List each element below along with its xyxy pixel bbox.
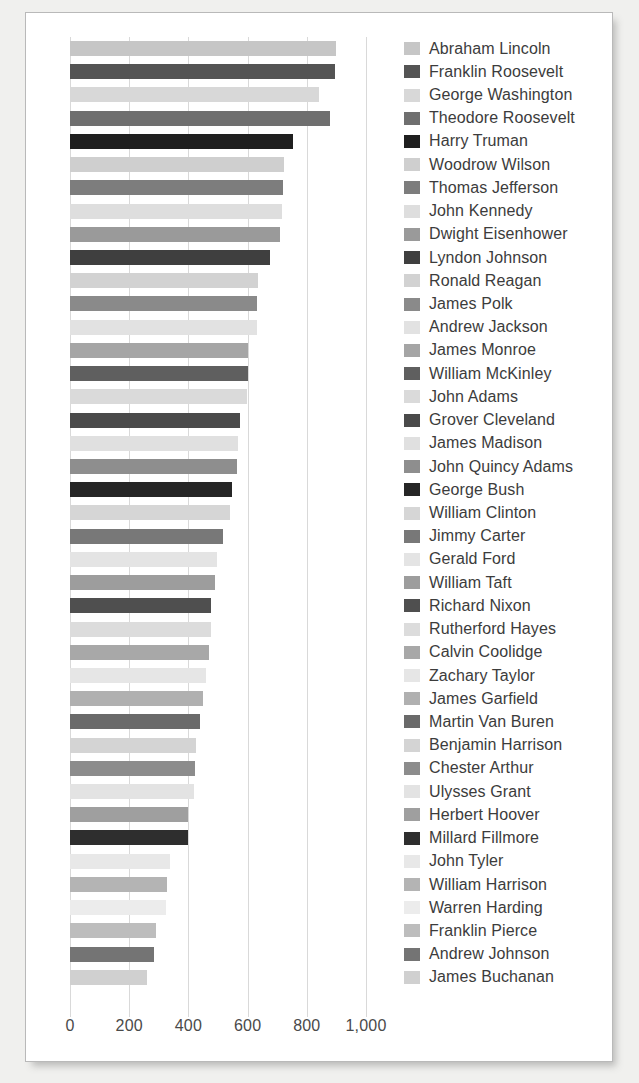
bar[interactable] — [70, 273, 258, 288]
legend-item[interactable]: George Bush — [404, 478, 524, 501]
bar-row[interactable] — [70, 757, 366, 780]
bar-row[interactable] — [70, 107, 366, 130]
legend-item[interactable]: George Washington — [404, 83, 572, 106]
legend-item[interactable]: Harry Truman — [404, 130, 528, 153]
bar[interactable] — [70, 877, 167, 892]
bar[interactable] — [70, 738, 196, 753]
bar[interactable] — [70, 87, 319, 102]
legend-item[interactable]: James Polk — [404, 292, 513, 315]
bar-row[interactable] — [70, 130, 366, 153]
legend-item[interactable]: Theodore Roosevelt — [404, 107, 575, 130]
bar-row[interactable] — [70, 385, 366, 408]
bar[interactable] — [70, 436, 238, 451]
legend-item[interactable]: Ulysses Grant — [404, 780, 531, 803]
legend-item[interactable]: James Madison — [404, 432, 542, 455]
legend-item[interactable]: Lyndon Johnson — [404, 246, 547, 269]
bar-row[interactable] — [70, 734, 366, 757]
bar[interactable] — [70, 389, 247, 404]
bar[interactable] — [70, 900, 166, 915]
bar-row[interactable] — [70, 687, 366, 710]
bar[interactable] — [70, 134, 293, 149]
bar[interactable] — [70, 64, 335, 79]
bar[interactable] — [70, 505, 230, 520]
legend-item[interactable]: John Kennedy — [404, 200, 533, 223]
legend-item[interactable]: Dwight Eisenhower — [404, 223, 568, 246]
legend-item[interactable]: William Taft — [404, 571, 512, 594]
bar[interactable] — [70, 761, 195, 776]
bar[interactable] — [70, 691, 203, 706]
bar-row[interactable] — [70, 966, 366, 989]
bar-row[interactable] — [70, 37, 366, 60]
bar-row[interactable] — [70, 896, 366, 919]
bar-row[interactable] — [70, 919, 366, 942]
legend-item[interactable]: Franklin Pierce — [404, 919, 537, 942]
bar-row[interactable] — [70, 618, 366, 641]
legend-item[interactable]: Grover Cleveland — [404, 409, 555, 432]
bar[interactable] — [70, 552, 217, 567]
legend-item[interactable]: Thomas Jefferson — [404, 176, 558, 199]
legend-item[interactable]: Andrew Johnson — [404, 943, 550, 966]
bar-row[interactable] — [70, 850, 366, 873]
bar[interactable] — [70, 111, 330, 126]
legend-item[interactable]: William Harrison — [404, 873, 547, 896]
legend-item[interactable]: James Garfield — [404, 687, 538, 710]
bar-row[interactable] — [70, 641, 366, 664]
bar-row[interactable] — [70, 153, 366, 176]
bar[interactable] — [70, 575, 215, 590]
bar-row[interactable] — [70, 664, 366, 687]
bar-row[interactable] — [70, 409, 366, 432]
legend-item[interactable]: Andrew Jackson — [404, 316, 548, 339]
legend-item[interactable]: William Clinton — [404, 501, 536, 524]
legend-item[interactable]: Zachary Taylor — [404, 664, 535, 687]
bar[interactable] — [70, 413, 240, 428]
legend-item[interactable]: Warren Harding — [404, 896, 543, 919]
legend-item[interactable]: Calvin Coolidge — [404, 641, 543, 664]
bar[interactable] — [70, 180, 283, 195]
bar-row[interactable] — [70, 780, 366, 803]
bar-row[interactable] — [70, 826, 366, 849]
bar[interactable] — [70, 714, 200, 729]
bar[interactable] — [70, 807, 188, 822]
bar-row[interactable] — [70, 455, 366, 478]
bar[interactable] — [70, 947, 154, 962]
bar-row[interactable] — [70, 594, 366, 617]
bar-row[interactable] — [70, 339, 366, 362]
legend-item[interactable]: Benjamin Harrison — [404, 734, 562, 757]
bar-row[interactable] — [70, 362, 366, 385]
bar[interactable] — [70, 459, 237, 474]
legend-item[interactable]: Gerald Ford — [404, 548, 515, 571]
bar-row[interactable] — [70, 176, 366, 199]
legend-item[interactable]: John Tyler — [404, 850, 504, 873]
bar[interactable] — [70, 598, 211, 613]
bar-row[interactable] — [70, 292, 366, 315]
bar-row[interactable] — [70, 200, 366, 223]
legend-item[interactable]: Ronald Reagan — [404, 269, 542, 292]
legend-item[interactable]: Woodrow Wilson — [404, 153, 550, 176]
bar-row[interactable] — [70, 548, 366, 571]
bar-row[interactable] — [70, 60, 366, 83]
bar[interactable] — [70, 296, 257, 311]
bar[interactable] — [70, 204, 282, 219]
legend-item[interactable]: Franklin Roosevelt — [404, 60, 563, 83]
bar[interactable] — [70, 320, 257, 335]
bar[interactable] — [70, 41, 336, 56]
bar-row[interactable] — [70, 710, 366, 733]
legend-item[interactable]: Millard Fillmore — [404, 826, 539, 849]
bar-row[interactable] — [70, 571, 366, 594]
bar-row[interactable] — [70, 803, 366, 826]
bar-row[interactable] — [70, 223, 366, 246]
legend-item[interactable]: Chester Arthur — [404, 757, 534, 780]
bar[interactable] — [70, 970, 147, 985]
bar[interactable] — [70, 157, 284, 172]
legend-item[interactable]: James Buchanan — [404, 966, 554, 989]
bar-row[interactable] — [70, 83, 366, 106]
bar[interactable] — [70, 830, 188, 845]
bar-row[interactable] — [70, 525, 366, 548]
bar-row[interactable] — [70, 269, 366, 292]
bar[interactable] — [70, 784, 194, 799]
legend-item[interactable]: Jimmy Carter — [404, 525, 525, 548]
legend-item[interactable]: Martin Van Buren — [404, 710, 554, 733]
bar[interactable] — [70, 250, 270, 265]
bar[interactable] — [70, 645, 209, 660]
bar[interactable] — [70, 227, 280, 242]
